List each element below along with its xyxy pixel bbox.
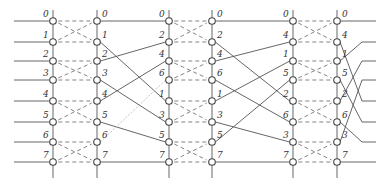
stage-3-input-node [290,98,297,105]
stage-2-output-node [209,98,216,105]
stage-1-input-node [50,98,57,105]
stage-1-input-label: 5 [43,110,49,120]
stage-1-output-node [94,58,101,65]
stage-2-output-node [209,119,216,126]
interstage-wire-1-1 [100,42,165,101]
interstage-wire-2-5 [215,80,289,142]
stage-3-output-node [334,139,341,146]
stage-2-output-label: 7 [217,150,223,160]
stage-3-output-label: 1 [342,49,348,59]
interstage-wire-2-2 [215,42,289,101]
stage-1-input-node [50,159,57,166]
stage-1-output-label: 7 [102,150,108,160]
stage-1-output-label: 2 [101,49,108,59]
stage-2-input-node [166,159,173,166]
stage-1-output-label: 5 [102,110,108,120]
stage-2-output-label: 6 [217,68,223,78]
stage-3-output-label: 3 [342,130,348,140]
stage-2-input-label: 7 [159,150,165,160]
stage-3-output-node [334,119,341,126]
interstage-wire-2-1 [215,61,289,101]
stage-1-input-label: 6 [43,130,49,140]
stage-1-input-node [50,77,57,84]
stage-2-input-label: 4 [158,49,165,59]
stage-1-output-node [94,139,101,146]
stage-1-input-label: 1 [43,30,49,40]
stage-1-output-node [94,39,101,46]
stage-1-output-node [94,77,101,84]
stage-1-output-node [94,98,101,105]
stage-3-input-label: 0 [283,9,289,19]
interstage-wire-1-3 [100,80,165,122]
stage-1-output-node [94,159,101,166]
stage-2-output-label: 5 [217,130,223,140]
stage-2-output-label: 0 [217,9,223,19]
stage-1-input-label: 3 [43,68,49,78]
interstage-wire-2-3 [215,122,289,142]
interstage-wire-1-6 [100,80,165,142]
stage-2-input-label: 3 [159,110,165,120]
stage-3-input-node [290,39,297,46]
stage-1-input-label: 4 [42,89,49,99]
stage-3-output-node [334,77,341,84]
stage-3-input-label: 3 [283,130,289,140]
stage-3-input-label: 6 [283,110,289,120]
butterfly-network-diagram: 0011223344556677002244661133557700441155… [0,0,390,185]
interstage-wire-2-4 [215,42,289,61]
stage-1-input-node [50,39,57,46]
stage-3-input-node [290,139,297,146]
stage-2-input-label: 6 [159,68,165,78]
stage-1-input-node [50,58,57,65]
stage-2-input-node [166,39,173,46]
stage-1-output-node [94,119,101,126]
stage-3-input-node [290,18,297,25]
stage-3-input-node [290,159,297,166]
stage-3-output-label: 2 [341,89,348,99]
stage-2-input-label: 5 [159,130,165,140]
stage-3-input-label: 1 [283,49,289,59]
stage-2-input-node [166,77,173,84]
interstage-wire-1-2 [100,42,165,61]
stage-2-input-node [166,139,173,146]
stage-3-output-label: 6 [342,110,348,120]
stage-2-output-node [209,39,216,46]
stage-2-output-node [209,58,216,65]
stage-1-output-node [94,18,101,25]
stage-2-output-node [209,159,216,166]
stage-3-output-node [334,98,341,105]
stage-3-input-node [290,58,297,65]
stage-3-output-label: 5 [342,68,348,78]
stage-2-input-node [166,119,173,126]
stage-2-input-label: 2 [158,30,165,40]
stage-3-output-node [334,58,341,65]
stage-1-input-label: 2 [42,49,49,59]
stage-2-output-node [209,18,216,25]
stage-1-output-label: 3 [102,68,108,78]
stage-2-input-node [166,18,173,25]
stage-2-output-label: 4 [216,49,223,59]
stage-3-input-label: 4 [282,30,289,40]
stage-3-input-label: 7 [283,150,289,160]
stage-1-output-label: 0 [102,9,108,19]
stage-1-input-label: 7 [43,150,49,160]
stage-1-output-label: 4 [101,89,108,99]
stage-3-output-label: 7 [342,150,348,160]
stage-3-output-node [334,18,341,25]
stage-1-input-label: 0 [43,9,49,19]
stage-3-output-node [334,159,341,166]
stage-2-output-node [209,77,216,84]
stage-3-input-node [290,119,297,126]
stage-1-output-label: 6 [102,130,108,140]
stage-2-output-label: 1 [217,89,223,99]
stage-2-output-label: 2 [216,30,223,40]
stage-1-input-node [50,139,57,146]
stage-1-input-node [50,119,57,126]
stage-1-input-node [50,18,57,25]
interstage-wire-1-4 [100,61,165,101]
interstage-wire-1-5 [100,122,165,142]
stage-3-output-label: 0 [342,9,348,19]
stage-3-output-node [334,39,341,46]
stage-2-input-label: 1 [159,89,165,99]
stage-3-input-node [290,77,297,84]
stage-3-input-label: 2 [282,89,289,99]
